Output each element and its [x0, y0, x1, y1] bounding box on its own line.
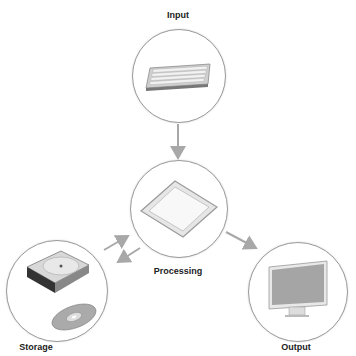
monitor-icon	[267, 259, 329, 321]
arrow-processing-to-output	[226, 232, 256, 248]
input-node	[132, 29, 226, 123]
optical-disc-icon	[49, 303, 99, 331]
processing-label: Processing	[128, 266, 228, 276]
processing-node	[130, 160, 228, 258]
storage-node	[6, 240, 108, 342]
arrow-storage-to-processing	[104, 236, 128, 250]
hard-drive-icon	[21, 249, 91, 301]
input-label: Input	[128, 10, 228, 20]
keyboard-icon	[144, 62, 214, 92]
output-label: Output	[246, 342, 346, 352]
arrow-processing-to-storage	[118, 248, 140, 262]
cpu-chip-icon	[139, 179, 219, 239]
storage-label: Storage	[0, 342, 86, 352]
output-node	[248, 242, 348, 342]
